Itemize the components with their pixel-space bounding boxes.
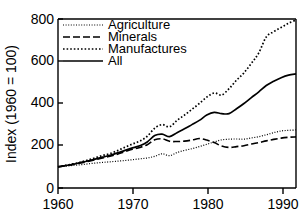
y-tick-label: 600 bbox=[31, 52, 55, 68]
x-tick-label: 1990 bbox=[267, 196, 298, 212]
line-chart: Index (1960 = 100) 800 600 400 200 0 196… bbox=[0, 0, 307, 223]
y-tick-labels: 800 600 400 200 0 bbox=[31, 11, 55, 196]
chart-legend: Agriculture Minerals Manufactures All bbox=[63, 17, 187, 68]
y-tick-label: 800 bbox=[31, 11, 55, 27]
y-axis-label: Index (1960 = 100) bbox=[3, 45, 19, 163]
y-tick-label: 0 bbox=[46, 180, 54, 196]
series-line-minerals bbox=[58, 137, 296, 167]
series-line-agriculture bbox=[58, 130, 296, 167]
legend-label-all: All bbox=[108, 53, 123, 68]
legend-entry-manufactures: Manufactures bbox=[63, 41, 187, 56]
x-tick-label: 1960 bbox=[42, 196, 73, 212]
x-tick-labels: 1960 1970 1980 1990 bbox=[42, 196, 298, 212]
x-tick-label: 1970 bbox=[117, 196, 148, 212]
chart-container: Index (1960 = 100) 800 600 400 200 0 196… bbox=[0, 0, 307, 223]
y-tick-label: 200 bbox=[31, 136, 55, 152]
series-line-all bbox=[58, 74, 296, 167]
y-tick-label: 400 bbox=[31, 94, 55, 110]
x-tick-label: 1980 bbox=[192, 196, 223, 212]
legend-entry-all: All bbox=[63, 53, 123, 68]
